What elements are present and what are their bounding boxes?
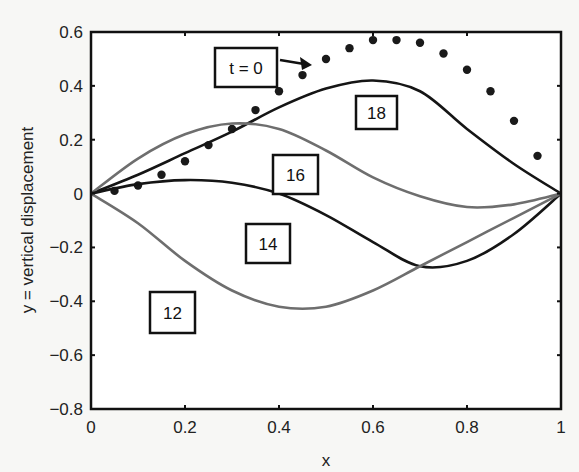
data-point bbox=[510, 117, 518, 125]
annotation-label-18: 18 bbox=[356, 96, 397, 129]
y-tick-label: 0.2 bbox=[59, 131, 83, 150]
x-tick-label: 0.4 bbox=[267, 418, 291, 437]
y-tick-label: −0.2 bbox=[49, 238, 83, 257]
svg-text:16: 16 bbox=[286, 166, 305, 185]
y-tick-label: −0.6 bbox=[49, 346, 83, 365]
y-tick-label: −0.4 bbox=[49, 292, 83, 311]
data-point bbox=[369, 36, 377, 44]
data-point bbox=[251, 106, 259, 114]
annotation-label-12: 12 bbox=[150, 292, 195, 333]
annotation-label-16: 16 bbox=[273, 155, 318, 194]
svg-text:14: 14 bbox=[259, 235, 278, 254]
x-tick-label: 0.6 bbox=[361, 418, 385, 437]
data-point bbox=[533, 152, 541, 160]
data-point bbox=[392, 36, 400, 44]
data-point bbox=[157, 171, 165, 179]
annotation-label-14: 14 bbox=[246, 224, 290, 263]
data-point bbox=[181, 157, 189, 165]
y-tick-label: 0.4 bbox=[59, 77, 83, 96]
y-tick-label: 0 bbox=[74, 185, 83, 204]
x-tick-label: 1 bbox=[556, 418, 565, 437]
x-tick-label: 0 bbox=[86, 418, 95, 437]
data-point bbox=[486, 87, 494, 95]
svg-text:12: 12 bbox=[163, 304, 182, 323]
x-tick-label: 0.2 bbox=[173, 418, 197, 437]
svg-text:18: 18 bbox=[367, 104, 386, 123]
data-point bbox=[463, 66, 471, 74]
y-tick-label: −0.8 bbox=[49, 400, 83, 419]
svg-text:t = 0: t = 0 bbox=[229, 59, 263, 78]
line-chart: t = 018161412 00.20.40.60.810.60.40.20−0… bbox=[0, 0, 579, 472]
data-point bbox=[345, 44, 353, 52]
data-point bbox=[298, 71, 306, 79]
data-point bbox=[275, 87, 283, 95]
y-tick-label: 0.6 bbox=[59, 23, 83, 42]
x-tick-label: 0.8 bbox=[455, 418, 479, 437]
y-axis-label: y = vertical displacement bbox=[18, 126, 37, 313]
x-axis-label: x bbox=[322, 451, 331, 470]
data-point bbox=[322, 55, 330, 63]
data-point bbox=[439, 49, 447, 57]
data-point bbox=[416, 39, 424, 47]
